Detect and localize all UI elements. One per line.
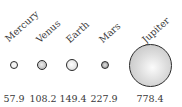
distance-mars: 227.9 bbox=[90, 93, 117, 104]
planet-mars-circle bbox=[101, 61, 109, 69]
planet-mercury-circle bbox=[10, 61, 18, 69]
distance-jupiter: 778.4 bbox=[136, 93, 163, 104]
planet-venus-circle bbox=[37, 60, 47, 70]
planet-jupiter-circle bbox=[129, 44, 172, 87]
distance-venus: 108.2 bbox=[29, 93, 56, 104]
label-venus: Venus bbox=[34, 18, 63, 45]
planet-earth-circle bbox=[66, 59, 78, 71]
label-mars: Mars bbox=[97, 20, 123, 45]
distance-mercury: 57.9 bbox=[3, 93, 24, 104]
label-jupiter: Jupiter bbox=[140, 15, 172, 45]
distance-earth: 149.4 bbox=[59, 93, 86, 104]
label-earth: Earth bbox=[64, 19, 91, 45]
